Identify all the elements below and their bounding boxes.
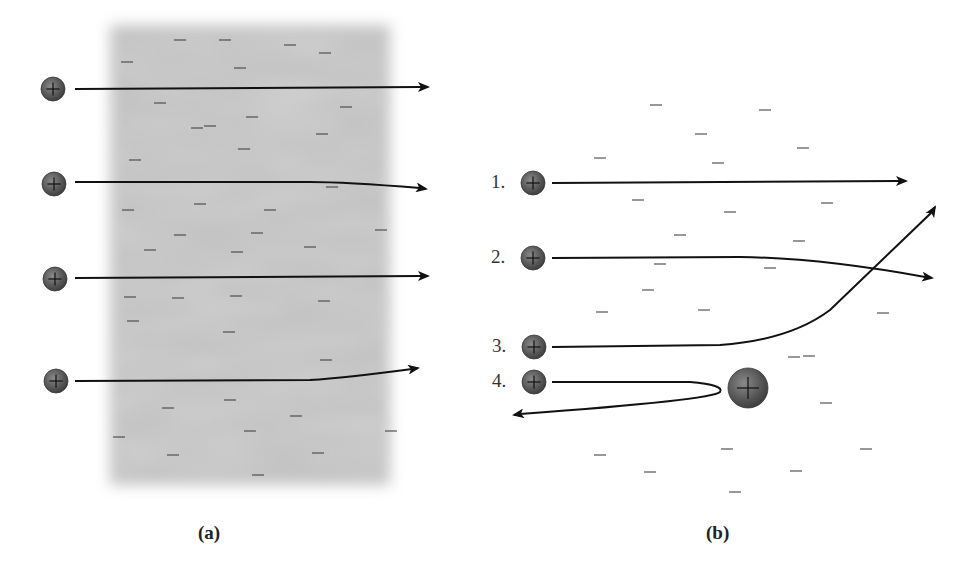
alpha-particle-icon [42, 172, 66, 196]
alpha-particle-icon [43, 267, 67, 291]
alpha-particle-trajectories [514, 171, 935, 415]
diffuse-positive-charge-region [110, 25, 390, 485]
electron-markers [594, 105, 889, 492]
alpha-particle-icon [521, 171, 545, 195]
panel-b-nuclear-model [514, 105, 935, 492]
panel-a-plum-pudding [41, 25, 428, 485]
nucleus-plus-icon [728, 368, 768, 408]
caption-panel-a: (a) [198, 522, 220, 544]
caption-panel-b: (b) [706, 522, 729, 544]
rutherford-scattering-figure: 1.2.3.4. (a) (b) [0, 0, 976, 564]
alpha-particle-icon [521, 246, 545, 270]
trajectory-arrow [552, 181, 906, 183]
trajectory-label: 3. [492, 335, 506, 357]
nucleus-icon [728, 368, 768, 408]
trajectory-arrow [552, 207, 935, 347]
trajectory-label: 2. [491, 246, 505, 268]
figure-canvas [0, 0, 976, 564]
trajectory-label: 1. [491, 171, 505, 193]
alpha-particle-icon [44, 369, 68, 393]
alpha-particle-icon [41, 77, 65, 101]
alpha-particle-icon [522, 335, 546, 359]
trajectory-label: 4. [492, 370, 506, 392]
alpha-particle-icon [522, 370, 546, 394]
